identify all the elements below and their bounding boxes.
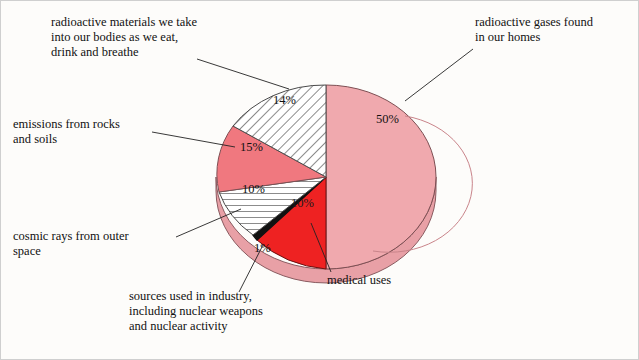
leader-line-top-right xyxy=(405,49,473,101)
slice-label-materials: 14% xyxy=(273,93,296,107)
annotation-top-right: radioactive gases found in our homes xyxy=(475,15,635,45)
slice-label-rocks: 15% xyxy=(240,140,263,154)
slice-label-cosmic: 10% xyxy=(242,182,265,196)
leader-line-top-left xyxy=(197,59,289,89)
annotation-bottom-right: medical uses xyxy=(327,273,467,288)
pie-chart-figure: 50% 10% 1% 10% 15% 14% radioactive mater… xyxy=(0,0,639,360)
annotation-lower-left: cosmic rays from outer space xyxy=(13,229,178,259)
annotation-bottom-center: sources used in industry, including nucl… xyxy=(129,289,319,334)
annotation-mid-left: emissions from rocks and soils xyxy=(13,117,163,147)
leader-line-mid-left xyxy=(152,132,235,147)
slice-label-medical: 10% xyxy=(291,196,314,210)
pie-slices xyxy=(217,85,436,269)
slice-label-gases: 50% xyxy=(376,112,399,126)
slice-label-industry: 1% xyxy=(254,241,271,255)
annotation-top-left: radioactive materials we take into our b… xyxy=(51,15,251,60)
